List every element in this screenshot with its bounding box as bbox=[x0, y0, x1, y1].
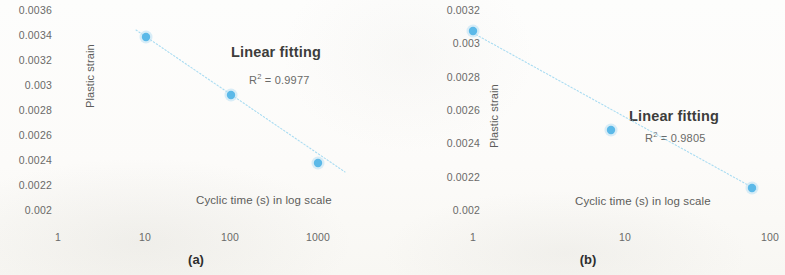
panel-a: 0.0036 0.0034 0.0032 0.003 0.0028 0.0026… bbox=[0, 0, 392, 275]
data-point bbox=[314, 159, 322, 167]
panel-caption-a: (a) bbox=[188, 252, 204, 267]
data-point bbox=[227, 91, 235, 99]
data-point bbox=[607, 126, 615, 134]
panel-caption-b: (b) bbox=[580, 252, 597, 267]
data-point bbox=[469, 27, 477, 35]
plot-canvas-a bbox=[0, 0, 392, 275]
plot-canvas-b bbox=[392, 0, 785, 275]
data-point bbox=[142, 33, 150, 41]
fit-line bbox=[473, 33, 757, 190]
data-point bbox=[748, 184, 756, 192]
figure-two-panel-scatter: 0.0036 0.0034 0.0032 0.003 0.0028 0.0026… bbox=[0, 0, 785, 275]
panel-b: 0.0032 0.003 0.0028 0.0026 0.0024 0.0022… bbox=[392, 0, 785, 275]
fit-line bbox=[136, 30, 345, 172]
